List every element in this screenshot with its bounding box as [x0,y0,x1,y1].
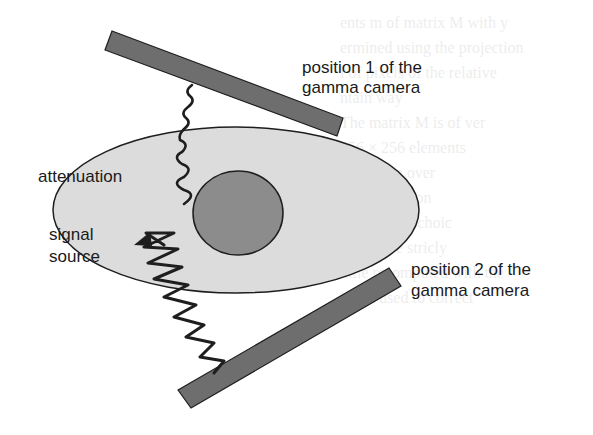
signal-source-label-line-1: signal [49,225,93,244]
camera-1-label-line-2: gamma camera [302,78,421,97]
camera-1-label-line-1: position 1 of the [302,58,422,77]
camera-2-label-line-1: position 2 of the [411,260,531,279]
organ-circle [193,171,283,255]
camera-2-label-line-2: gamma camera [411,281,530,300]
gamma-camera-diagram: position 1 of the gamma camera attenuati… [0,0,593,435]
attenuation-label: attenuation [38,167,122,186]
signal-source-label-line-2: source [49,247,100,266]
diagram-canvas: ents m of matrix M with y ermined using … [0,0,593,435]
